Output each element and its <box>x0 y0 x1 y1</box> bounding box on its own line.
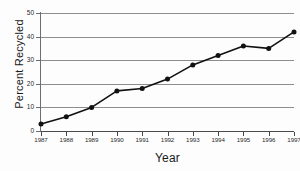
data-point <box>216 53 221 58</box>
line-series <box>0 0 300 171</box>
data-point <box>266 46 271 51</box>
data-point <box>140 86 145 91</box>
data-point <box>292 29 297 34</box>
data-point <box>114 88 119 93</box>
series-markers <box>39 29 297 126</box>
data-point <box>241 44 246 49</box>
chart-screenshot: Percent Recycled Year 01020304050 198719… <box>0 0 300 171</box>
data-point <box>165 77 170 82</box>
data-point <box>190 62 195 67</box>
data-point <box>39 121 44 126</box>
data-point <box>64 114 69 119</box>
data-point <box>89 105 94 110</box>
